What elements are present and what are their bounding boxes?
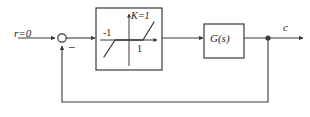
- negative-breakpoint-label: -1: [103, 28, 111, 38]
- input-signal-label: r=0: [14, 28, 31, 39]
- summing-junction-minus-sign: −: [68, 41, 75, 54]
- output-signal-label: c: [283, 22, 288, 33]
- diagram-vector-layer: [0, 0, 310, 117]
- gain-slope-label: K=1: [131, 11, 149, 21]
- output-signal-line: [244, 35, 303, 40]
- summing-junction: [58, 34, 66, 42]
- plant-transfer-function-label: G(s): [210, 33, 230, 44]
- positive-breakpoint-label: 1: [137, 44, 142, 54]
- block-diagram-canvas: r=0 c − K=1 -1 1 G(s): [0, 0, 310, 117]
